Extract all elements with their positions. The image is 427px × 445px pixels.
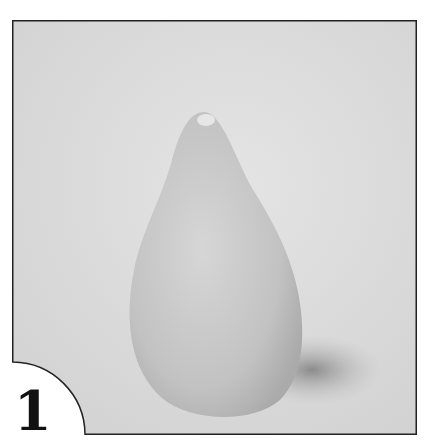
photo-frame	[12, 20, 417, 435]
figure-number: 1	[14, 384, 52, 438]
pear-tip-highlight	[197, 114, 215, 126]
photo-illustration	[12, 20, 417, 435]
